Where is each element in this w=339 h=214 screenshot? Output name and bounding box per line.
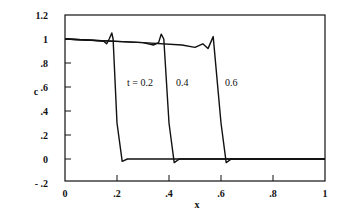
- x-tick-label: 1: [323, 188, 328, 199]
- y-tick-label: .8: [41, 58, 49, 69]
- y-tick-label: .6: [41, 82, 49, 93]
- series-line: [65, 33, 325, 161]
- chart: 1.21.8.6.4.20- .2 0.2.4.6.81 c x t = 0.2…: [0, 0, 339, 214]
- annotation-t04: 0.4: [176, 77, 189, 88]
- y-tick-label: .2: [41, 130, 49, 141]
- y-tick-label: 1.2: [36, 10, 49, 21]
- x-tick-label: .8: [269, 188, 277, 199]
- y-tick-label: .4: [41, 106, 49, 117]
- y-tick-label: - .2: [35, 178, 48, 189]
- y-tick-label: 0: [43, 154, 48, 165]
- x-tick-label: .4: [165, 188, 173, 199]
- x-tick-label: 0: [63, 188, 68, 199]
- x-axis: 0.2.4.6.81: [63, 175, 328, 199]
- y-axis-label: c: [34, 86, 39, 97]
- x-axis-label: x: [195, 199, 200, 210]
- series-line: [65, 34, 325, 162]
- series-lines: [65, 33, 325, 163]
- x-tick-label: .6: [217, 188, 225, 199]
- annotation-t02: t = 0.2: [127, 77, 153, 88]
- plot-frame: [65, 15, 325, 181]
- annotation-t06: 0.6: [225, 77, 238, 88]
- x-tick-label: .2: [113, 188, 121, 199]
- series-line: [65, 37, 325, 163]
- y-tick-label: 1: [43, 34, 48, 45]
